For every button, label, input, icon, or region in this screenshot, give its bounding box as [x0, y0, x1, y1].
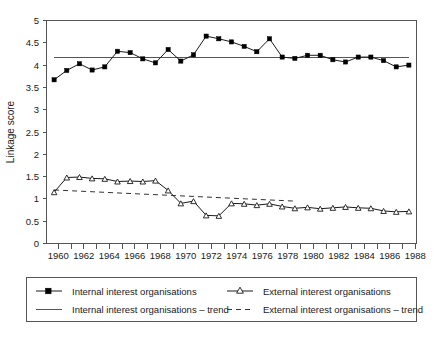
y-tick-label-0-5: 0.5 — [26, 216, 39, 227]
data-point-internal-1973 — [217, 37, 221, 41]
y-tick-label-1: 1 — [34, 193, 39, 204]
x-tick-label-1978: 1978 — [277, 250, 298, 261]
x-tick-label-1988: 1988 — [405, 250, 426, 261]
y-tick-label-5: 5 — [34, 15, 39, 26]
chart-figure: Linkage score 0 0.5 1 1.5 2 2.5 3 3 — [0, 0, 443, 341]
data-point-internal-1965 — [115, 49, 119, 53]
data-point-internal-1962 — [77, 62, 81, 66]
data-point-internal-1984 — [356, 55, 360, 59]
y-axis-label: Linkage score — [5, 100, 16, 163]
y-tick-label-2-5: 2.5 — [26, 127, 39, 138]
x-tick-label-1964: 1964 — [99, 250, 120, 261]
y-tick-label-3: 3 — [34, 104, 39, 115]
legend-label-external-series: External interest organisations — [263, 286, 391, 297]
x-tick-label-1980: 1980 — [303, 250, 324, 261]
legend-label-external-trend: External interest organisations – trend — [263, 304, 423, 315]
data-point-internal-1972 — [204, 34, 208, 38]
data-point-internal-1979 — [293, 56, 297, 60]
data-point-internal-1977 — [267, 37, 271, 41]
data-point-internal-1963 — [90, 68, 94, 72]
x-tick-label-1982: 1982 — [328, 250, 349, 261]
x-tick-label-1962: 1962 — [73, 250, 94, 261]
x-tick-label-1968: 1968 — [150, 250, 171, 261]
x-tick-label-1970: 1970 — [175, 250, 196, 261]
data-point-internal-1967 — [141, 57, 145, 61]
y-tick-label-1-5: 1.5 — [26, 171, 39, 182]
legend-label-internal-trend: Internal interest organisations – trend — [72, 304, 229, 315]
x-tick-label-1966: 1966 — [124, 250, 145, 261]
y-tick-label-3-5: 3.5 — [26, 82, 39, 93]
data-point-internal-1969 — [166, 47, 170, 51]
legend-marker-filled-square — [46, 288, 52, 294]
data-point-internal-1966 — [128, 51, 132, 55]
data-point-internal-1982 — [331, 58, 335, 62]
x-tick-label-1984: 1984 — [354, 250, 375, 261]
data-point-internal-1985 — [369, 55, 373, 59]
data-point-internal-1968 — [153, 61, 157, 65]
data-point-internal-1987 — [394, 65, 398, 69]
data-point-internal-1974 — [229, 40, 233, 44]
legend-label-internal-series: Internal interest organisations — [72, 286, 197, 297]
y-tick-label-4: 4 — [34, 60, 39, 71]
x-tick-label-1972: 1972 — [201, 250, 222, 261]
data-point-internal-1986 — [381, 59, 385, 63]
data-point-internal-1960 — [52, 78, 56, 82]
data-point-internal-1964 — [103, 65, 107, 69]
x-tick-label-1976: 1976 — [252, 250, 273, 261]
data-point-internal-1978 — [280, 55, 284, 59]
y-tick-label-2: 2 — [34, 149, 39, 160]
data-point-internal-1971 — [191, 53, 195, 57]
data-point-internal-1988 — [407, 63, 411, 67]
y-tick-label-4-5: 4.5 — [26, 37, 39, 48]
data-point-internal-1970 — [179, 59, 183, 63]
linkage-score-line-chart: Linkage score 0 0.5 1 1.5 2 2.5 3 3 — [0, 0, 443, 341]
x-tick-label-1960: 1960 — [48, 250, 69, 261]
y-axis-label-text: Linkage score — [5, 100, 16, 163]
data-point-internal-1980 — [305, 53, 309, 57]
x-tick-label-1974: 1974 — [226, 250, 247, 261]
y-tick-label-0: 0 — [34, 238, 39, 249]
data-point-internal-1981 — [318, 53, 322, 57]
data-point-internal-1983 — [343, 60, 347, 64]
data-point-internal-1961 — [65, 68, 69, 72]
x-axis-tick-labels: 1960 1962 1964 1966 1968 1970 1972 1974 … — [48, 250, 426, 261]
data-point-internal-1976 — [255, 50, 259, 54]
data-point-internal-1975 — [242, 44, 246, 48]
x-tick-label-1986: 1986 — [379, 250, 400, 261]
